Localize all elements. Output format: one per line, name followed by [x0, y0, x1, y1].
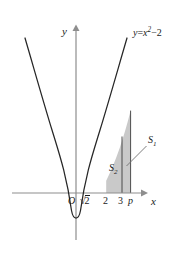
tick-label-3: 3: [118, 196, 123, 206]
curve-equation-label: y=x2−2: [133, 27, 162, 38]
radicand: 2: [85, 195, 90, 206]
region-label-s2: S2: [109, 163, 118, 176]
tick-label-2: 2: [103, 196, 108, 206]
y-axis-label: y: [62, 26, 67, 37]
plot-canvas: [0, 0, 191, 258]
y-axis-arrow-icon: [73, 25, 80, 32]
radical-sign-icon: √2: [80, 195, 90, 206]
tick-label-sqrt2: √2: [80, 195, 90, 206]
math-figure: y x O √2 2 3 p y=x2−2 S1 S2: [0, 0, 191, 258]
x-axis-arrow-icon: [141, 189, 148, 196]
region-label-s1-subscript: 1: [153, 140, 157, 148]
region-label-s1: S1: [148, 135, 157, 148]
shaded-region-total: [106, 111, 130, 193]
equation-constant: −2: [151, 27, 162, 38]
region-label-s2-subscript: 2: [114, 168, 118, 176]
origin-label: O: [68, 196, 75, 206]
x-axis-label: x: [151, 196, 156, 207]
tick-label-p: p: [128, 196, 133, 206]
